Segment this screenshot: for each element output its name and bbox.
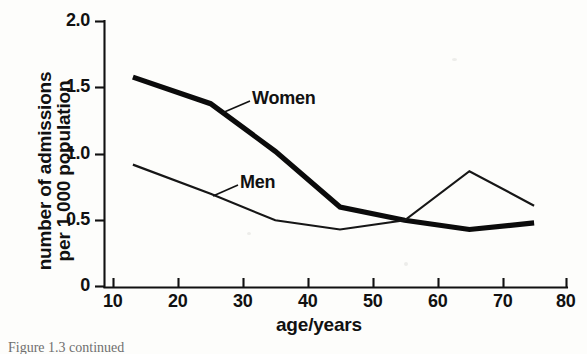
y-axis-title-line2: per 1 000 population: [54, 81, 73, 262]
x-tick-label-70: 70: [493, 291, 512, 312]
x-tick-label-60: 60: [428, 291, 447, 312]
x-tick-label-10: 10: [103, 291, 122, 312]
x-tick-label-20: 20: [168, 291, 187, 312]
y-axis-title-line1: number of admissions: [35, 72, 54, 271]
figure-panel: 2.0 1.5 1.0 0.5 0 10 20 30 40 50 60 70 8…: [0, 0, 587, 354]
x-axis-title: age/years: [276, 314, 362, 336]
men-leader-line: [213, 185, 238, 196]
x-tick-label-80: 80: [556, 291, 575, 312]
x-tick-label-30: 30: [233, 291, 252, 312]
figure-caption: Figure 1.3 continued: [8, 340, 428, 354]
y-axis-title: number of admissions per 1 000 populatio…: [31, 56, 77, 286]
series-line-men: [133, 165, 534, 230]
women-leader-line: [222, 101, 250, 113]
series-line-women: [133, 77, 534, 229]
series-label-women: Women: [252, 88, 316, 109]
x-tick-label-40: 40: [298, 291, 317, 312]
y-tick-label-2.0: 2.0: [56, 10, 90, 31]
series-label-men: Men: [240, 172, 275, 193]
x-tick-label-50: 50: [363, 291, 382, 312]
